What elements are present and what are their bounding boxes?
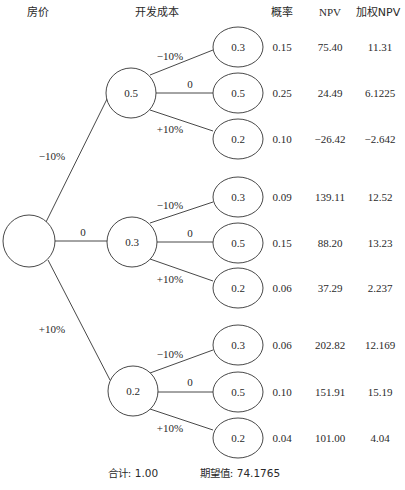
weighted-npv-cell: 12.169 — [365, 339, 396, 351]
weighted-npv-cell: −2.642 — [365, 133, 396, 145]
leaf-value: 0.3 — [231, 191, 245, 203]
probability-cell: 0.15 — [272, 41, 292, 53]
probability-cell: 0.15 — [272, 237, 292, 249]
edge-label-b3-c2: 0 — [187, 376, 193, 388]
edge-label-b2: 0 — [80, 226, 86, 238]
edge-label-b2-c3: +10% — [157, 273, 183, 285]
probability-cell: 0.10 — [272, 386, 292, 398]
npv-cell: 151.91 — [315, 386, 345, 398]
probability-cell: 0.04 — [272, 432, 292, 444]
weighted-npv-cell: 13.23 — [368, 237, 393, 249]
probability-cell: 0.06 — [272, 339, 292, 351]
weighted-npv-cell: 2.237 — [368, 282, 393, 294]
edge-label-b3-c1: −10% — [157, 348, 183, 360]
edge-label-b1: −10% — [39, 150, 65, 162]
header-house-price: 房价 — [27, 6, 49, 19]
weighted-npv-cell: 6.1225 — [365, 87, 396, 99]
header-dev-cost: 开发成本 — [135, 5, 179, 19]
header-weighted-npv: 加权NPV — [356, 6, 401, 19]
leaf-value: 0.5 — [231, 87, 245, 99]
npv-cell: 202.82 — [315, 339, 345, 351]
edge-label-b3: +10% — [39, 323, 65, 335]
decision-tree-diagram: 房价 开发成本 概率 NPV 加权NPV −10% 0 +10% 0.5 0.3… — [0, 0, 405, 490]
weighted-npv-cell: 11.31 — [368, 41, 392, 53]
edge-label-b1-c3: +10% — [157, 123, 183, 135]
branch-node-2-value: 0.3 — [125, 236, 139, 248]
npv-cell: −26.42 — [315, 133, 346, 145]
npv-cell: 139.11 — [315, 191, 345, 203]
leaf-value: 0.3 — [231, 339, 245, 351]
edge-root-to-b3 — [48, 260, 110, 380]
edge-label-b2-c2: 0 — [187, 227, 193, 239]
weighted-npv-cell: 4.04 — [370, 432, 390, 444]
leaf-value: 0.2 — [231, 133, 245, 145]
weighted-npv-cell: 12.52 — [368, 191, 393, 203]
npv-cell: 75.40 — [318, 41, 343, 53]
header-npv: NPV — [319, 6, 341, 18]
edge-label-b2-c1: −10% — [157, 199, 183, 211]
expected-value: 期望值: 74.1765 — [200, 467, 280, 479]
leaf-value: 0.3 — [231, 41, 245, 53]
npv-cell: 101.00 — [315, 432, 346, 444]
npv-cell: 37.29 — [318, 282, 343, 294]
leaf-value: 0.2 — [231, 282, 245, 294]
npv-cell: 88.20 — [318, 237, 343, 249]
probability-cell: 0.06 — [272, 282, 292, 294]
probability-cell: 0.10 — [272, 133, 292, 145]
probability-cell: 0.25 — [272, 87, 292, 99]
edge-label-b1-c2: 0 — [187, 78, 193, 90]
header-probability: 概率 — [271, 5, 293, 19]
leaf-value: 0.5 — [231, 237, 245, 249]
weighted-npv-cell: 15.19 — [368, 386, 393, 398]
branch-node-3-value: 0.2 — [126, 385, 140, 397]
probability-cell: 0.09 — [272, 191, 292, 203]
leaf-value: 0.2 — [231, 432, 245, 444]
leaf-value: 0.5 — [231, 386, 245, 398]
edge-label-b1-c1: −10% — [157, 50, 183, 62]
edge-label-b3-c3: +10% — [157, 422, 183, 434]
branch-node-1-value: 0.5 — [124, 87, 138, 99]
npv-cell: 24.49 — [318, 87, 343, 99]
total-probability: 合计: 1.00 — [108, 467, 158, 479]
root-node — [3, 215, 55, 267]
